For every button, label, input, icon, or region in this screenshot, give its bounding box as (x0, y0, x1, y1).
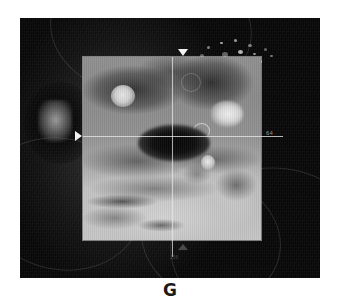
position-marker-left-icon[interactable] (75, 131, 82, 141)
fundus-image[interactable]: 64 256 (20, 18, 320, 278)
position-marker-bottom-icon[interactable] (178, 244, 188, 250)
position-marker-top-icon[interactable] (178, 49, 188, 56)
scan-index-bottom-label: 256 (170, 254, 178, 260)
crosshair-vertical-line[interactable] (172, 57, 173, 257)
scan-index-label: 64 (266, 130, 273, 137)
panel-label: G (0, 279, 340, 301)
figure-panel: 64 256 G (0, 0, 340, 304)
crosshair-horizontal-line[interactable] (83, 136, 283, 137)
